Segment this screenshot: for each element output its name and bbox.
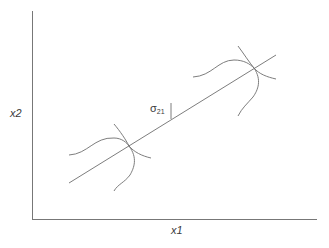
sigma-symbol: σ [150, 102, 157, 114]
diagram-figure: x2 x1 σ21 [0, 0, 329, 248]
x-axis-label: x1 [171, 225, 183, 236]
sigma-subscript: 21 [157, 108, 165, 115]
y-axis-label: x2 [10, 108, 22, 119]
sigma-annotation: σ21 [150, 103, 165, 115]
diagram-canvas [0, 0, 329, 248]
regression-line [69, 55, 276, 183]
